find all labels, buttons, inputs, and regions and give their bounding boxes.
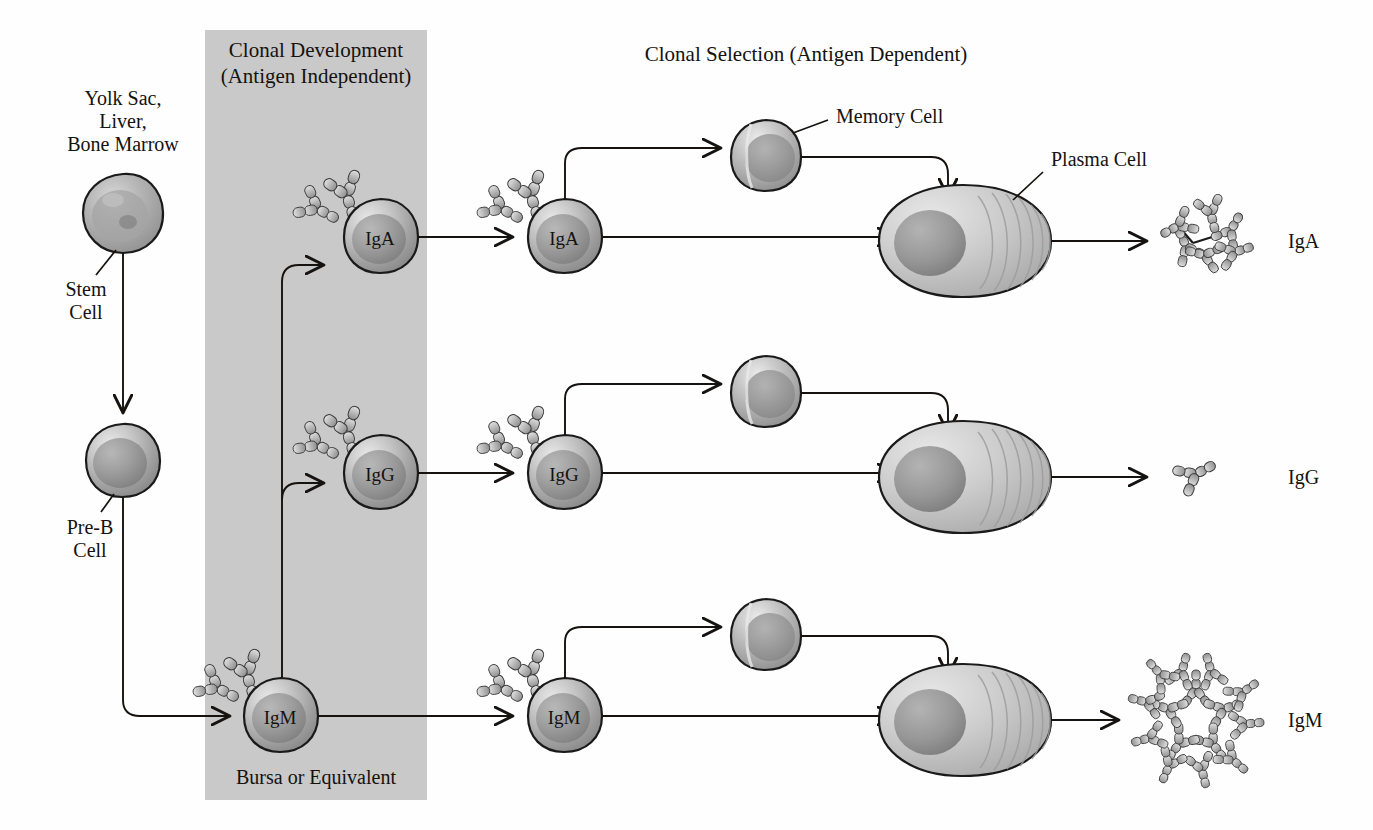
pre-b-cell-label-line1: Pre-B — [67, 516, 114, 538]
bursa-band-label: Bursa or Equivalent — [236, 766, 396, 789]
memory-cell-label: Memory Cell — [836, 105, 944, 128]
developing-cell-label-igg: IgG — [365, 464, 395, 485]
diagram-canvas: Clonal Development (Antigen Independent)… — [0, 0, 1373, 830]
memory-cell-igm — [731, 599, 801, 670]
stem-cell — [83, 174, 163, 253]
pre-b-cell — [86, 424, 160, 497]
plasma-cell-iga — [879, 185, 1051, 297]
selected-cell-label-igm: IgM — [548, 707, 581, 728]
plasma-cell-igm — [879, 664, 1051, 776]
pre-b-cell-label-line2: Cell — [73, 539, 107, 561]
memory-cell-igg — [731, 356, 801, 427]
secreted-label-igg: IgG — [1288, 466, 1319, 489]
tissue-label-line2: Liver, — [99, 110, 147, 132]
clonal-selection-title: Clonal Selection (Antigen Dependent) — [645, 42, 968, 66]
secreted-label-iga: IgA — [1288, 230, 1320, 253]
secreted-label-igm: IgM — [1288, 709, 1323, 732]
stem-cell-label-line2: Cell — [69, 301, 103, 323]
plasma-cell-igg — [879, 421, 1051, 533]
bursa-band — [205, 30, 427, 800]
selected-cell-label-igg: IgG — [549, 464, 579, 485]
stem-cell-label-line1: Stem — [65, 278, 107, 300]
developing-cell-label-iga: IgA — [365, 228, 395, 249]
b-cell-development-diagram: Clonal Development (Antigen Independent)… — [0, 0, 1373, 830]
selected-cell-label-iga: IgA — [549, 228, 579, 249]
developing-cell-label-igm: IgM — [264, 707, 297, 728]
memory-cell-iga — [731, 120, 801, 191]
clonal-development-title-line1: Clonal Development — [229, 38, 404, 62]
clonal-development-title-line2: (Antigen Independent) — [221, 64, 412, 88]
tissue-label-line1: Yolk Sac, — [85, 87, 162, 109]
plasma-cell-label: Plasma Cell — [1051, 148, 1148, 170]
tissue-label-line3: Bone Marrow — [67, 133, 179, 155]
